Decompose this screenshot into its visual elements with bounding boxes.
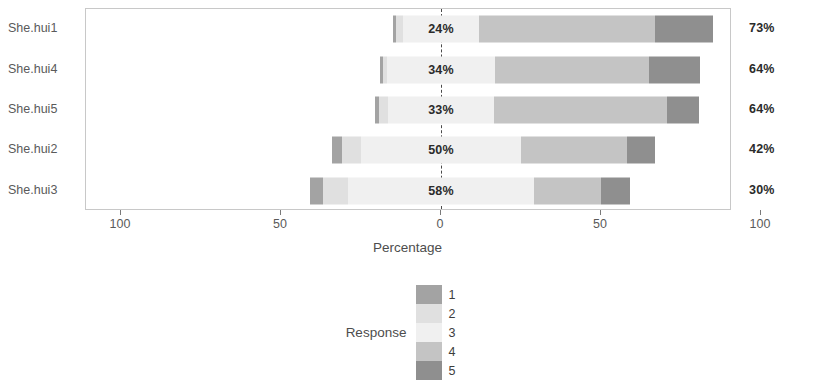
positive-percent-label: 73% — [749, 21, 775, 35]
x-axis-title: Percentage — [0, 240, 815, 255]
x-axis: 10050050100 — [85, 210, 731, 240]
stacked-bar — [375, 96, 698, 123]
positive-percent-label: 30% — [749, 183, 775, 197]
axis-tick-label: 100 — [750, 217, 771, 231]
positive-percent-label: 64% — [749, 102, 775, 116]
row-category-label: She.hui5 — [8, 102, 78, 116]
bar-segment-cat4 — [534, 177, 601, 204]
axis-tick-label: 50 — [593, 217, 607, 231]
legend-swatch — [416, 342, 442, 361]
legend-swatch — [416, 285, 442, 304]
neutral-percent-label: 50% — [428, 143, 454, 157]
positive-percent-label: 42% — [749, 142, 775, 156]
axis-tick — [440, 210, 441, 215]
row-category-label: She.hui2 — [8, 142, 78, 156]
bar-row: 58% — [86, 171, 730, 211]
bar-segment-cat2 — [323, 177, 349, 204]
legend: Response 12345 — [0, 285, 815, 380]
legend-swatch — [416, 361, 442, 380]
bar-segment-cat4 — [479, 16, 655, 43]
legend-key-label: 1 — [448, 288, 455, 302]
bar-segment-cat2 — [379, 96, 389, 123]
stacked-bar — [332, 137, 655, 164]
bar-segment-cat2 — [342, 137, 361, 164]
legend-title: Response — [346, 325, 407, 340]
neutral-percent-label: 24% — [428, 22, 454, 36]
bar-row: 33% — [86, 90, 730, 130]
axis-tick — [760, 210, 761, 215]
neutral-percent-label: 58% — [428, 184, 454, 198]
axis-tick — [280, 210, 281, 215]
legend-swatch — [416, 304, 442, 323]
axis-tick — [600, 210, 601, 215]
legend-key-label: 2 — [448, 307, 455, 321]
axis-tick-label: 50 — [273, 217, 287, 231]
positive-percent-label: 64% — [749, 62, 775, 76]
bar-segment-cat4 — [521, 137, 627, 164]
legend-item[interactable]: 3 — [416, 323, 465, 342]
legend-item[interactable]: 2 — [416, 304, 465, 323]
neutral-percent-label: 33% — [428, 103, 454, 117]
bar-row: 24% — [86, 9, 730, 49]
axis-tick — [120, 210, 121, 215]
axis-tick-label: 0 — [437, 217, 444, 231]
bar-segment-cat1 — [332, 137, 342, 164]
legend-item[interactable]: 5 — [416, 361, 465, 380]
bar-segment-cat5 — [649, 56, 700, 83]
bar-segment-cat5 — [667, 96, 699, 123]
stacked-bar — [310, 177, 630, 204]
legend-key-label: 4 — [448, 345, 455, 359]
plot-panel: 24%34%33%50%58% — [85, 8, 731, 210]
legend-item[interactable]: 4 — [416, 342, 465, 361]
row-category-label: She.hui1 — [8, 21, 78, 35]
bar-segment-cat5 — [627, 137, 656, 164]
legend-key-label: 5 — [448, 364, 455, 378]
axis-tick-label: 100 — [110, 217, 131, 231]
bar-segment-cat5 — [655, 16, 713, 43]
bar-row: 50% — [86, 130, 730, 170]
row-category-label: She.hui4 — [8, 62, 78, 76]
legend-item[interactable]: 1 — [416, 285, 465, 304]
bar-segment-cat5 — [601, 177, 630, 204]
bar-row: 34% — [86, 49, 730, 89]
bar-segment-cat4 — [495, 56, 649, 83]
legend-key-label: 3 — [448, 326, 455, 340]
row-category-label: She.hui3 — [8, 183, 78, 197]
legend-items: 12345 — [416, 285, 469, 380]
neutral-percent-label: 34% — [428, 63, 454, 77]
bar-segment-cat1 — [310, 177, 323, 204]
legend-swatch — [416, 323, 442, 342]
bar-segment-cat4 — [494, 96, 667, 123]
